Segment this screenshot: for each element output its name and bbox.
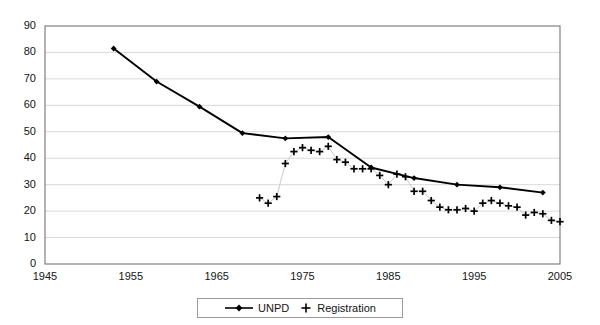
registration-connector-line <box>260 146 560 221</box>
unpd-data-point <box>454 182 460 188</box>
line-diamond-marker-icon <box>224 303 254 313</box>
unpd-data-point <box>411 175 417 181</box>
plus-marker-icon <box>299 302 313 314</box>
registration-data-point <box>359 165 366 172</box>
legend-label-registration: Registration <box>317 302 376 314</box>
unpd-data-point <box>282 135 288 141</box>
registration-data-point <box>282 160 289 167</box>
legend-item-unpd: UNPD <box>224 302 289 314</box>
registration-data-point <box>556 218 563 225</box>
registration-data-point <box>290 148 297 155</box>
registration-data-point <box>316 148 323 155</box>
registration-data-point <box>350 165 357 172</box>
registration-data-point <box>410 188 417 195</box>
plot-area <box>0 0 600 325</box>
registration-data-point <box>531 209 538 216</box>
chart-legend: UNPD Registration <box>197 298 403 318</box>
unpd-data-point <box>497 184 503 190</box>
registration-data-point <box>342 159 349 166</box>
series-registration <box>256 143 564 226</box>
legend-label-unpd: UNPD <box>258 302 289 314</box>
unpd-line <box>114 48 543 192</box>
registration-data-point <box>256 194 263 201</box>
registration-data-point <box>488 197 495 204</box>
registration-data-point <box>496 200 503 207</box>
registration-data-point <box>453 206 460 213</box>
unpd-data-point <box>540 190 546 196</box>
registration-data-point <box>436 204 443 211</box>
registration-data-point <box>299 144 306 151</box>
chart-container: 0102030405060708090 19451955196519751985… <box>0 0 600 325</box>
registration-data-point <box>333 156 340 163</box>
legend-item-registration: Registration <box>299 302 376 314</box>
registration-data-point <box>445 206 452 213</box>
series-unpd <box>111 46 546 196</box>
registration-data-point <box>505 202 512 209</box>
registration-data-point <box>548 217 555 224</box>
registration-data-point <box>265 200 272 207</box>
registration-data-point <box>325 143 332 150</box>
registration-data-point <box>307 147 314 154</box>
registration-data-point <box>273 193 280 200</box>
